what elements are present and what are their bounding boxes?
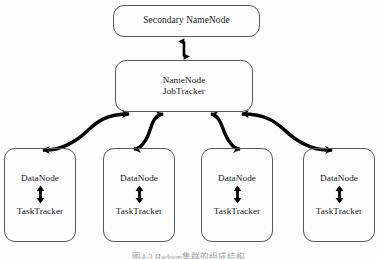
datanode-4-internal-double-arrow	[334, 185, 345, 204]
node-namenode-jobtracker[interactable]: NameNode JobTracker	[115, 60, 253, 112]
node-datanode-1-label: DataNode	[21, 173, 59, 185]
datanode-1-internal-double-arrow	[35, 185, 46, 204]
node-datanode-4[interactable]: DataNode TaskTracker	[303, 148, 375, 242]
node-datanode-2-label: DataNode	[120, 173, 158, 185]
node-jobtracker-label: JobTracker	[163, 86, 205, 98]
node-tasktracker-2-label: TaskTracker	[116, 206, 163, 218]
node-datanode-3[interactable]: DataNode TaskTracker	[201, 148, 273, 242]
node-datanode-4-label: DataNode	[320, 173, 358, 185]
datanode-2-internal-double-arrow	[134, 185, 145, 204]
node-secondary-namenode[interactable]: Secondary NameNode	[113, 5, 260, 37]
node-datanode-3-label: DataNode	[218, 173, 256, 185]
datanode-3-stack: DataNode TaskTracker	[214, 173, 261, 218]
node-tasktracker-4-label: TaskTracker	[316, 206, 363, 218]
node-secondary-namenode-label: Secondary NameNode	[143, 15, 229, 27]
datanode-2-stack: DataNode TaskTracker	[116, 173, 163, 218]
figure-caption: 图4-3 Hadoop集群的组成结构	[0, 250, 377, 259]
diagram-canvas: Secondary NameNode NameNode JobTracker D…	[0, 0, 377, 259]
node-datanode-2[interactable]: DataNode TaskTracker	[103, 148, 175, 242]
connector-namenode-to-datanode-3	[211, 114, 240, 149]
connector-namenode-to-datanode-2	[134, 114, 163, 149]
node-tasktracker-3-label: TaskTracker	[214, 206, 261, 218]
datanode-4-stack: DataNode TaskTracker	[316, 173, 363, 218]
node-datanode-1[interactable]: DataNode TaskTracker	[4, 148, 76, 242]
datanode-1-stack: DataNode TaskTracker	[17, 173, 64, 218]
datanode-3-internal-double-arrow	[232, 185, 243, 204]
node-namenode-label: NameNode	[163, 75, 206, 87]
connector-namenode-to-datanode-1	[43, 114, 129, 150]
node-tasktracker-1-label: TaskTracker	[17, 206, 64, 218]
connector-namenode-to-datanode-4	[242, 114, 332, 150]
